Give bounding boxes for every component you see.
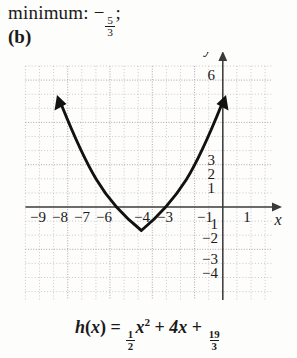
- minus-sign: −: [94, 2, 105, 23]
- x-tick--6: −6: [96, 209, 112, 225]
- equation-x-squared-exponent: 2: [144, 316, 150, 328]
- grid-horizontal-minor: [25, 66, 272, 292]
- equation-linear-term: 4x: [169, 317, 187, 337]
- minimum-label: minimum:: [8, 2, 89, 23]
- figure-page: minimum: −53; (b): [0, 0, 297, 358]
- minimum-fraction: 53: [105, 15, 115, 39]
- half-numerator: 1: [126, 329, 135, 340]
- equation-function-name: h: [75, 317, 85, 337]
- x-tick--9: −9: [30, 209, 46, 225]
- y-axis: [218, 52, 227, 300]
- equation-variable: x: [91, 317, 100, 337]
- x-tick--7: −7: [74, 209, 90, 225]
- equation-coefficient-half: 12: [126, 329, 135, 352]
- grid-vertical-major: [68, 66, 223, 300]
- y-tick-6: 6: [208, 67, 216, 83]
- constant-numerator: 19: [207, 329, 221, 340]
- graph-figure: y x −9 −8 −7 −6 −4 −3 −1 1 6 3 2 1 1 −2: [0, 52, 297, 306]
- half-denominator: 2: [126, 340, 135, 352]
- y-axis-label: y: [202, 52, 212, 57]
- equation-close-paren: ): [100, 317, 106, 337]
- x-axis-label: x: [273, 211, 281, 228]
- equation-plus-1: +: [154, 317, 164, 337]
- function-equation: h(x) = 12x2 + 4x + 193: [0, 316, 297, 352]
- y-tick-1: 1: [208, 180, 216, 196]
- fraction-numerator: 5: [105, 15, 115, 27]
- fraction-denominator: 3: [105, 26, 115, 39]
- x-tick--3: −3: [157, 209, 173, 225]
- equation-equals: =: [111, 317, 121, 337]
- x-tick--4: −4: [134, 209, 150, 225]
- x-tick--8: −8: [52, 209, 68, 225]
- y-tick--2: −2: [202, 230, 218, 246]
- equation-plus-2: +: [192, 317, 202, 337]
- y-tick--4: −4: [202, 265, 218, 281]
- x-tick-1: 1: [243, 209, 251, 225]
- part-label-b: (b): [8, 26, 31, 48]
- constant-denominator: 3: [210, 340, 219, 352]
- semicolon: ;: [116, 2, 121, 23]
- equation-constant-fraction: 193: [207, 329, 221, 352]
